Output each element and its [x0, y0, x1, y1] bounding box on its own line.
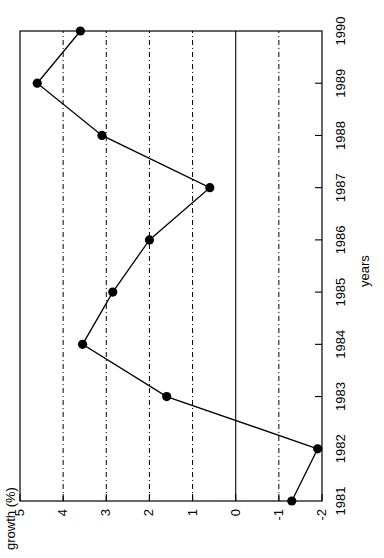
y-axis-tick-label: 3 [99, 509, 112, 555]
data-point [162, 392, 171, 401]
chart-plot-area-rotated: 543210-1-2 19811982198319841985198619871… [0, 0, 384, 558]
data-point [287, 496, 296, 505]
data-point [205, 183, 214, 192]
data-point [313, 444, 322, 453]
x-axis-tick-label: 1988 [334, 105, 347, 165]
x-axis-tick-label: 1985 [334, 262, 347, 322]
data-point [78, 340, 87, 349]
plot-frame [20, 31, 322, 501]
line-chart-svg [0, 0, 384, 558]
data-point [97, 131, 106, 140]
y-axis-tick-label: -1 [272, 509, 285, 555]
x-axis-tick-label: 1982 [334, 419, 347, 479]
x-axis-tick-label: 1984 [334, 314, 347, 374]
x-axis-tick-label: 1990 [334, 1, 347, 61]
x-axis-tick-label: 1986 [334, 210, 347, 270]
x-axis-tick-label: 1983 [334, 367, 347, 427]
x-axis-tick-label: 1989 [334, 53, 347, 113]
y-axis-tick-label: 2 [142, 509, 155, 555]
x-axis-tick-label: 1987 [334, 158, 347, 218]
x-axis-tick-label: 1981 [334, 471, 347, 531]
data-point [145, 235, 154, 244]
y-axis-tick-label: 0 [229, 509, 242, 555]
y-axis-tick-label: 1 [186, 509, 199, 555]
x-axis-title: years [358, 255, 371, 287]
data-point [76, 26, 85, 35]
data-point [108, 288, 117, 297]
y-axis-title: growth (%) [4, 487, 17, 550]
data-point [33, 79, 42, 88]
y-axis-tick-label: -2 [315, 509, 328, 555]
chart-figure: 543210-1-2 19811982198319841985198619871… [0, 0, 384, 558]
y-axis-tick-label: 4 [56, 509, 69, 555]
